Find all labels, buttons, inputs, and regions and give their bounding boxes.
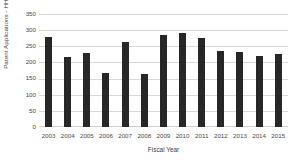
bar-slot [77,14,96,127]
bar-slot [192,14,211,127]
bar[interactable] [198,38,205,127]
bar-slot [211,14,230,127]
bar[interactable] [141,74,148,127]
bar-slot [39,14,58,127]
x-axis-tick-label: 2014 [250,131,269,141]
bar[interactable] [83,53,90,127]
bar[interactable] [256,56,263,127]
bar-slot [154,14,173,127]
bar[interactable] [45,37,52,127]
y-axis-tick-label: 100 [18,92,36,98]
bar[interactable] [236,52,243,127]
x-axis-tick-label: 2009 [154,131,173,141]
bar[interactable] [275,54,282,127]
bar-slot [269,14,288,127]
x-axis-title: Fiscal Year [39,146,288,154]
y-axis-tick-label: 200 [18,59,36,65]
bar[interactable] [102,73,109,127]
x-axis-tick-label: 2005 [77,131,96,141]
x-axis-tick-label: 2006 [96,131,115,141]
x-axis-tick-label: 2013 [230,131,249,141]
bar[interactable] [122,42,129,127]
bar-chart: Patent Applications - HHS 35030025020015… [0,0,291,161]
bar-slot [58,14,77,127]
x-axis-tick-labels: 2003200420052006200720082009201020112012… [39,131,288,141]
bar-slot [96,14,115,127]
x-axis-tick-label: 2015 [269,131,288,141]
x-axis-tick-label: 2011 [192,131,211,141]
bar[interactable] [64,57,71,127]
x-axis-tick-label: 2004 [58,131,77,141]
y-axis-tick-label: 50 [18,108,36,114]
bar[interactable] [179,33,186,127]
bar[interactable] [160,35,167,127]
y-axis-tick-label: 250 [18,43,36,49]
y-axis-tick-label: 0 [18,124,36,130]
bar-slot [116,14,135,127]
plot-area [39,14,288,127]
bar-slot [230,14,249,127]
x-axis-tick-label: 2010 [173,131,192,141]
x-axis-tick-label: 2012 [211,131,230,141]
y-axis-tick-label: 300 [18,27,36,33]
bar-slot [135,14,154,127]
bar[interactable] [217,51,224,127]
bar-slot [173,14,192,127]
x-axis-tick-label: 2008 [135,131,154,141]
y-axis-tick-label: 350 [18,11,36,17]
x-axis-tick-label: 2003 [39,131,58,141]
bar-series [39,14,288,127]
y-axis-tick-label: 150 [18,75,36,81]
x-axis-tick-label: 2007 [116,131,135,141]
y-axis-tick-labels: 350300250200150100500 [18,0,36,161]
y-axis-title: Patent Applications - HHS [0,0,12,84]
bar-slot [250,14,269,127]
